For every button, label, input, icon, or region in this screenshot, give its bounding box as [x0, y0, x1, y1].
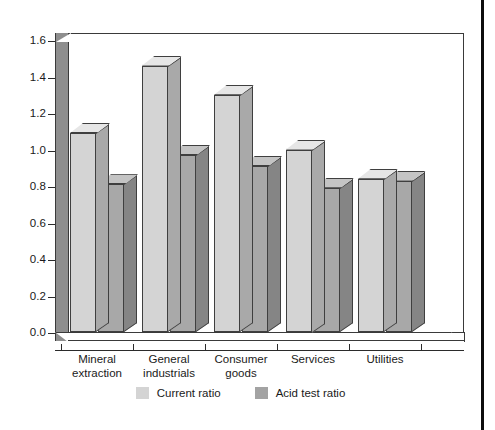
y-axis-tick-mark	[48, 114, 55, 115]
bar-current-ratio[interactable]	[214, 95, 240, 332]
bar-side-face	[340, 179, 353, 332]
bar-front-face	[70, 133, 96, 332]
bar-side-face	[312, 140, 325, 332]
y-axis-tick-mark	[48, 224, 55, 225]
bar-side-face	[268, 157, 281, 332]
y-axis-tick-label: 0.8	[30, 180, 46, 192]
y-axis-tick-label: 0.0	[30, 326, 46, 338]
x-axis-category-label-line: Utilities	[340, 353, 430, 367]
y-axis: 0.00.20.40.60.81.01.21.41.6	[0, 33, 55, 343]
chart-figure: 0.00.20.40.60.81.01.21.41.6 Mineralextra…	[0, 0, 481, 430]
y-axis-tick-mark	[48, 41, 55, 42]
x-axis-tick-mark	[133, 344, 134, 351]
x-axis-category-label-line: goods	[196, 367, 286, 381]
y-axis-tick-label: 1.4	[30, 71, 46, 83]
bar-current-ratio[interactable]	[358, 179, 384, 332]
legend-item-label: Current ratio	[157, 387, 221, 399]
y-axis-tick-label: 0.4	[30, 253, 46, 265]
y-axis-tick-label: 0.6	[30, 217, 46, 229]
y-axis-tick-mark	[48, 333, 55, 334]
chart-left-wall-top-bevel	[56, 33, 71, 42]
y-axis-tick-mark	[48, 187, 55, 188]
y-axis-tick-label: 1.0	[30, 144, 46, 156]
legend-item[interactable]: Current ratio	[136, 387, 221, 399]
page-edge-artifact	[481, 0, 484, 430]
bar-current-ratio[interactable]	[142, 66, 168, 332]
legend-item[interactable]: Acid test ratio	[255, 387, 346, 399]
bar-front-face	[286, 150, 312, 333]
y-axis-tick-label: 1.6	[30, 34, 46, 46]
bar-side-face	[412, 171, 425, 332]
bar-side-face	[384, 170, 397, 332]
x-axis-tick-mark	[277, 344, 278, 351]
y-axis-tick-mark	[48, 151, 55, 152]
y-axis-tick-mark	[48, 260, 55, 261]
x-axis-tick-mark	[421, 344, 422, 351]
x-axis-tick-mark	[349, 344, 350, 351]
x-axis-tick-mark	[61, 344, 62, 351]
bar-side-face	[196, 146, 209, 332]
bar-current-ratio[interactable]	[70, 133, 96, 332]
x-axis-line	[55, 350, 464, 351]
chart-left-wall	[55, 33, 69, 341]
x-axis: MineralextractionGeneralindustrialsConsu…	[55, 341, 464, 381]
chart-legend: Current ratioAcid test ratio	[0, 387, 481, 399]
x-axis-category-label: Utilities	[340, 353, 430, 367]
bar-side-face	[124, 175, 137, 332]
legend-swatch-icon	[136, 387, 149, 399]
bar-front-face	[214, 95, 240, 332]
bar-side-face	[96, 124, 109, 332]
legend-swatch-icon	[255, 387, 268, 399]
legend-item-label: Acid test ratio	[276, 387, 346, 399]
y-axis-tick-mark	[48, 297, 55, 298]
bar-side-face	[240, 86, 253, 332]
bar-front-face	[142, 66, 168, 332]
y-axis-tick-label: 1.2	[30, 107, 46, 119]
plot-area	[55, 33, 464, 341]
x-axis-tick-mark	[205, 344, 206, 351]
y-axis-tick-mark	[48, 78, 55, 79]
bar-side-face	[168, 56, 181, 332]
bar-current-ratio[interactable]	[286, 150, 312, 333]
y-axis-tick-label: 0.2	[30, 290, 46, 302]
bar-front-face	[358, 179, 384, 332]
